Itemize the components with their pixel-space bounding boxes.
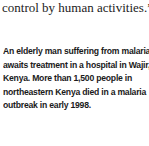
photo-caption: An elderly man suffering from malaria aw… [3, 44, 149, 112]
quote-text-end: control by human activities.” [2, 0, 149, 16]
